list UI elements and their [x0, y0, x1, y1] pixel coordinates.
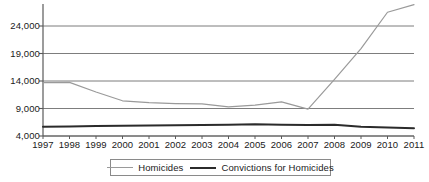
legend-item-convictions: Convictions for Homicides — [190, 162, 333, 173]
x-axis-tick-label: 2001 — [134, 139, 164, 150]
x-axis-tick-label: 2007 — [293, 139, 323, 150]
legend-item-homicides: Homicides — [107, 162, 183, 173]
legend-line-swatch-convictions — [190, 167, 216, 169]
x-axis-tick-label: 2006 — [267, 139, 297, 150]
x-axis-tick-label: 1999 — [81, 139, 111, 150]
legend-label-convictions: Convictions for Homicides — [221, 162, 333, 173]
x-axis-tick-label: 2004 — [214, 139, 244, 150]
gridlines — [43, 26, 414, 136]
chart-legend: Homicides Convictions for Homicides — [110, 159, 331, 176]
x-axis-tick-label: 1998 — [55, 139, 85, 150]
y-axis-tick-label: 9,000 — [2, 104, 40, 114]
legend-line-swatch-homicides — [107, 167, 133, 168]
x-axis-tick-label: 2005 — [240, 139, 270, 150]
x-axis-tick-label: 2010 — [373, 139, 403, 150]
legend-label-homicides: Homicides — [138, 162, 183, 173]
x-axis-tick-label: 2009 — [346, 139, 376, 150]
y-axis-tick-label: 24,000 — [2, 21, 40, 31]
plot-area — [0, 0, 419, 152]
y-axis-labels: 4,0009,00014,00019,00024,000 — [0, 0, 40, 152]
y-axis-tick-label: 14,000 — [2, 76, 40, 86]
series-line-homicides — [43, 5, 414, 110]
x-axis-tick-label: 2000 — [108, 139, 138, 150]
x-axis-tick-label: 1997 — [28, 139, 58, 150]
x-axis-tick-label: 2003 — [187, 139, 217, 150]
x-axis-tick-label: 2011 — [399, 139, 429, 150]
x-axis-labels: 1997199819992000200120022003200420052006… — [43, 136, 415, 154]
y-axis-tick-label: 19,000 — [2, 49, 40, 59]
series-line-convictions — [43, 124, 414, 128]
x-axis-tick-label: 2008 — [320, 139, 350, 150]
x-axis-tick-label: 2002 — [161, 139, 191, 150]
chart-canvas — [0, 0, 419, 152]
